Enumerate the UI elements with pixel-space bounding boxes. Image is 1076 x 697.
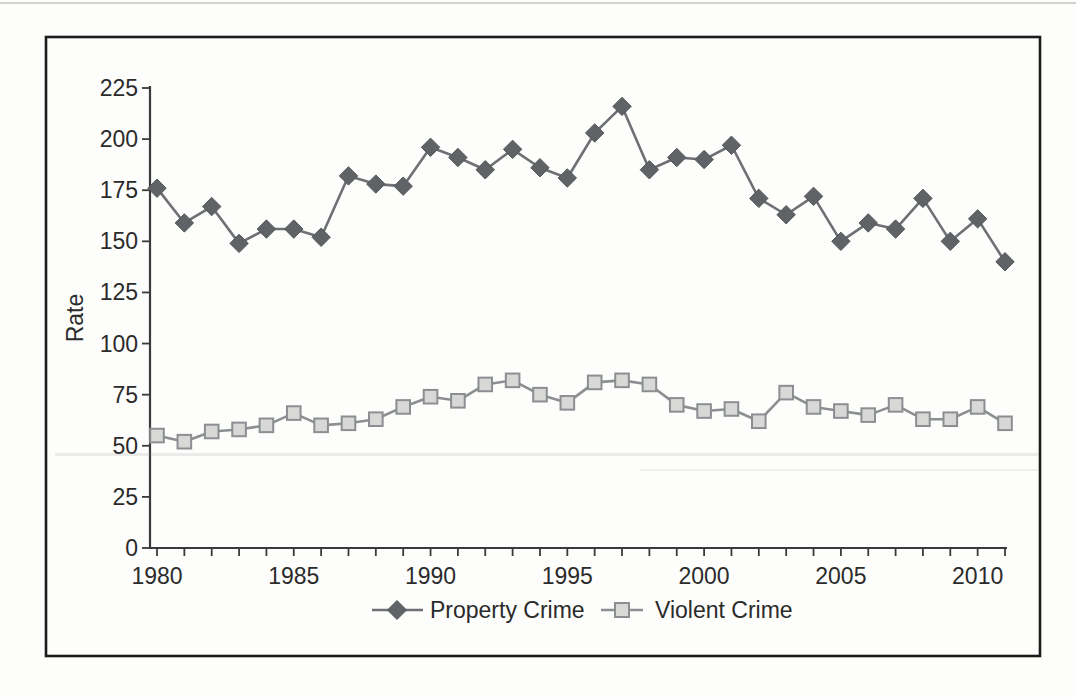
property-crime-point bbox=[722, 136, 740, 154]
y-tick-label: 25 bbox=[112, 484, 138, 510]
x-axis-ticks bbox=[157, 548, 1005, 556]
violent-crime-point bbox=[150, 429, 164, 443]
x-tick-label: 2005 bbox=[815, 563, 866, 589]
violent-crime-point bbox=[889, 398, 903, 412]
property-crime-point bbox=[996, 253, 1014, 271]
violent-crime-point bbox=[861, 408, 875, 422]
violent-crime-point bbox=[670, 398, 684, 412]
violent-crime-point bbox=[807, 400, 821, 414]
violent-crime-line bbox=[157, 380, 1005, 441]
property-crime-point bbox=[750, 189, 768, 207]
violent-crime-point bbox=[260, 419, 274, 433]
property-crime-point bbox=[777, 206, 795, 224]
property-crime-point bbox=[203, 197, 221, 215]
violent-crime-point bbox=[971, 400, 985, 414]
x-axis-tick-labels: 1980198519901995200020052010 bbox=[131, 563, 1003, 589]
property-crime-point bbox=[421, 138, 439, 156]
x-tick-label: 1980 bbox=[131, 563, 182, 589]
legend-violent-square-icon bbox=[615, 603, 629, 617]
series-violent-crime bbox=[150, 374, 1012, 449]
crime-rate-line-chart: 0255075100125150175200225 19801985199019… bbox=[0, 0, 1076, 697]
violent-crime-point bbox=[178, 435, 192, 449]
legend-entry-violent: Violent Crime bbox=[601, 597, 793, 623]
property-crime-point bbox=[640, 161, 658, 179]
series-property-crime bbox=[148, 97, 1014, 271]
x-tick-label: 1995 bbox=[542, 563, 593, 589]
y-axis-ticks bbox=[142, 88, 150, 548]
property-crime-point bbox=[503, 140, 521, 158]
property-crime-point bbox=[230, 234, 248, 252]
violent-crime-point bbox=[588, 376, 602, 390]
property-crime-point bbox=[367, 175, 385, 193]
violent-crime-point bbox=[916, 412, 930, 426]
violent-crime-point bbox=[643, 378, 657, 392]
legend-violent-label: Violent Crime bbox=[655, 597, 793, 623]
violent-crime-point bbox=[478, 378, 492, 392]
property-crime-point bbox=[668, 148, 686, 166]
property-crime-point bbox=[257, 220, 275, 238]
violent-crime-point bbox=[424, 390, 438, 404]
violent-crime-point bbox=[369, 412, 383, 426]
violent-crime-point bbox=[725, 402, 739, 416]
violent-crime-point bbox=[998, 416, 1012, 430]
y-tick-label: 175 bbox=[100, 177, 138, 203]
x-tick-label: 2010 bbox=[952, 563, 1003, 589]
violent-crime-point bbox=[451, 394, 465, 408]
axes: 0255075100125150175200225 19801985199019… bbox=[100, 75, 1007, 589]
scanned-figure-page: 0255075100125150175200225 19801985199019… bbox=[0, 0, 1076, 697]
x-tick-label: 1990 bbox=[405, 563, 456, 589]
legend-property-label: Property Crime bbox=[430, 597, 585, 623]
violent-crime-point bbox=[287, 406, 301, 420]
y-tick-label: 125 bbox=[100, 279, 138, 305]
property-crime-point bbox=[531, 159, 549, 177]
violent-crime-point bbox=[342, 416, 356, 430]
violent-crime-point bbox=[533, 388, 547, 402]
violent-crime-point bbox=[561, 396, 575, 410]
legend: Property Crime Violent Crime bbox=[372, 597, 793, 623]
violent-crime-point bbox=[232, 423, 246, 437]
y-tick-label: 200 bbox=[100, 126, 138, 152]
property-crime-point bbox=[832, 232, 850, 250]
violent-crime-point bbox=[314, 419, 328, 433]
violent-crime-point bbox=[697, 404, 711, 418]
property-crime-point bbox=[695, 150, 713, 168]
y-tick-label: 75 bbox=[112, 382, 138, 408]
property-crime-point bbox=[476, 161, 494, 179]
violent-crime-point bbox=[779, 386, 793, 400]
y-tick-label: 50 bbox=[112, 433, 138, 459]
y-axis-tick-labels: 0255075100125150175200225 bbox=[100, 75, 138, 561]
property-crime-point bbox=[394, 177, 412, 195]
x-tick-label: 2000 bbox=[679, 563, 730, 589]
property-crime-point bbox=[558, 169, 576, 187]
x-tick-label: 1985 bbox=[268, 563, 319, 589]
property-crime-point bbox=[859, 214, 877, 232]
property-crime-line bbox=[157, 106, 1005, 261]
violent-crime-point bbox=[205, 425, 219, 439]
violent-crime-point bbox=[615, 374, 629, 388]
violent-crime-point bbox=[506, 374, 520, 388]
y-tick-label: 100 bbox=[100, 331, 138, 357]
property-crime-point bbox=[312, 228, 330, 246]
y-tick-label: 225 bbox=[100, 75, 138, 101]
violent-crime-point bbox=[943, 412, 957, 426]
y-axis-title: Rate bbox=[62, 294, 88, 343]
violent-crime-point bbox=[752, 414, 766, 428]
property-crime-point bbox=[339, 167, 357, 185]
property-crime-point bbox=[285, 220, 303, 238]
legend-property-diamond-icon bbox=[388, 601, 407, 620]
legend-entry-property: Property Crime bbox=[372, 597, 585, 623]
y-tick-label: 150 bbox=[100, 228, 138, 254]
property-crime-point bbox=[449, 148, 467, 166]
violent-crime-point bbox=[396, 400, 410, 414]
property-crime-point bbox=[804, 187, 822, 205]
y-tick-label: 0 bbox=[125, 535, 138, 561]
violent-crime-point bbox=[834, 404, 848, 418]
